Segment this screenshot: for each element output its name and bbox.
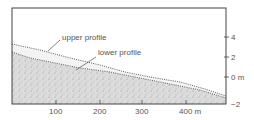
x-tick-label: 300 [135, 107, 149, 116]
upper-leader [48, 40, 60, 51]
y-tick-label: −2 [231, 100, 241, 109]
profile-diagram: upper profile lower profile 100 200 300 … [0, 0, 254, 120]
upper-profile-label: upper profile [62, 33, 107, 42]
y-tick-label: 4 [231, 33, 236, 42]
x-tick-label: 100 [49, 107, 63, 116]
y-tick-label: 0 m [231, 73, 245, 82]
x-tick-label: 400 m [179, 107, 202, 116]
lower-profile-label: lower profile [98, 48, 142, 57]
y-tick-label: 2 [231, 53, 236, 62]
x-tick-label: 200 [93, 107, 107, 116]
